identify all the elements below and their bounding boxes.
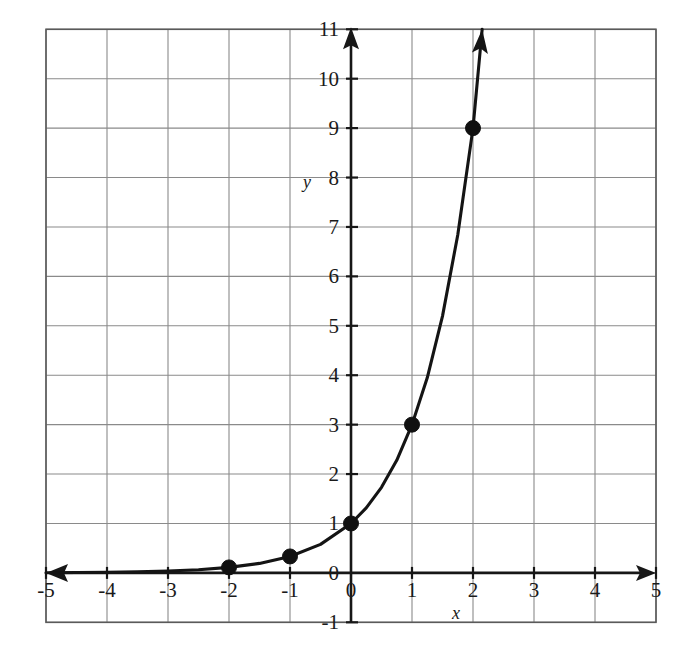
x-axis-label: x (451, 603, 460, 623)
x-tick-label: 4 (590, 578, 601, 602)
x-tick-label: -2 (220, 578, 238, 602)
exponential-graph-figure: -5-4-3-2-1012345-101234567891011 yx (0, 0, 687, 668)
figure-background (0, 0, 687, 668)
y-tick-label: 10 (318, 67, 339, 91)
x-tick-label: 3 (529, 578, 540, 602)
x-tick-label: -5 (37, 578, 55, 602)
y-tick-label: 6 (329, 264, 340, 288)
y-axis-label: y (301, 172, 311, 192)
y-tick-label: 7 (329, 215, 340, 239)
data-point (466, 121, 481, 136)
y-tick-label: -1 (322, 610, 340, 634)
y-tick-label: 9 (329, 116, 340, 140)
x-tick-label: 1 (407, 578, 418, 602)
coordinate-plane: -5-4-3-2-1012345-101234567891011 yx (0, 0, 687, 668)
x-tick-label: -3 (159, 578, 177, 602)
y-tick-label: 3 (329, 413, 340, 437)
data-point (222, 560, 237, 575)
y-tick-label: 0 (329, 561, 340, 585)
x-tick-label: 2 (468, 578, 479, 602)
x-tick-label: -4 (98, 578, 116, 602)
x-tick-label: 0 (346, 578, 357, 602)
x-tick-label: -1 (281, 578, 299, 602)
y-tick-label: 2 (329, 462, 340, 486)
data-point (405, 417, 420, 432)
y-tick-label: 8 (329, 166, 340, 190)
y-tick-label: 11 (319, 17, 339, 41)
y-tick-label: 4 (329, 363, 340, 387)
data-point (283, 549, 298, 564)
y-tick-label: 5 (329, 314, 340, 338)
data-point (344, 516, 359, 531)
x-tick-label: 5 (651, 578, 662, 602)
